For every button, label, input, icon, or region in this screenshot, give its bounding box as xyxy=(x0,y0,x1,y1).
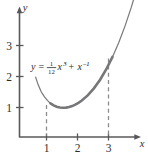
equation-equals: = xyxy=(39,61,45,72)
equation-term1-exponent: 3 xyxy=(62,60,67,67)
equation-plus: + xyxy=(69,61,75,72)
equation-term1-base: x xyxy=(57,61,63,72)
figure-container: 3 2 1 1 2 3 y x y = 1 12 x 3 + x –1 xyxy=(0,0,148,157)
y-axis-label: y xyxy=(22,2,28,13)
curve-segment-right xyxy=(113,0,142,57)
x-tick-label-3: 3 xyxy=(106,142,112,154)
y-tick-label-2: 2 xyxy=(6,71,12,83)
equation-term2-exponent: –1 xyxy=(82,60,90,67)
equation-term2-base: x xyxy=(77,61,83,72)
y-tick-label-1: 1 xyxy=(6,102,12,114)
x-axis-label: x xyxy=(139,138,145,149)
equation-fraction-numerator: 1 xyxy=(50,60,53,67)
x-tick-label-1: 1 xyxy=(44,142,50,154)
curve-segment-left xyxy=(36,77,51,103)
equation-annotation: y = 1 12 x 3 + x –1 xyxy=(30,60,90,75)
y-axis-arrow-icon xyxy=(17,7,23,14)
equation-fraction-denominator: 12 xyxy=(48,68,55,75)
equation-lhs: y xyxy=(30,61,36,72)
y-tick-label-3: 3 xyxy=(6,40,12,52)
function-graph: 3 2 1 1 2 3 y x y = 1 12 x 3 + x –1 xyxy=(0,0,148,157)
x-tick-label-2: 2 xyxy=(75,142,81,154)
